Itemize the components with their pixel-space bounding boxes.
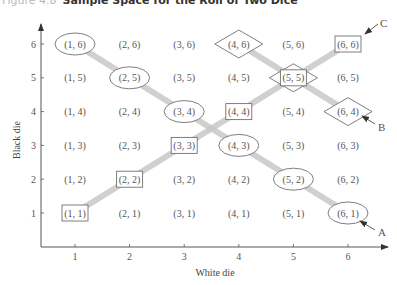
y-tick-label: 1 <box>31 208 36 219</box>
y-tick-label: 6 <box>31 39 36 50</box>
outcome-label: (3, 1) <box>173 208 195 220</box>
outcome-label: (2, 4) <box>119 106 141 118</box>
outcome-label: (6, 2) <box>337 174 359 186</box>
callout-arrow-a <box>360 221 375 230</box>
outcome-label: (5, 2) <box>283 174 305 186</box>
outcome-label: (3, 5) <box>173 72 195 84</box>
outcome-label: (2, 2) <box>119 174 141 186</box>
callout-arrow-c <box>365 24 378 34</box>
outcome-label: (4, 2) <box>228 174 250 186</box>
outcome-label: (4, 6) <box>228 39 250 51</box>
outcome-label: (3, 4) <box>173 106 195 118</box>
x-axis-label: White die <box>195 267 235 278</box>
outcome-label: (1, 5) <box>64 72 86 84</box>
outcome-label: (2, 1) <box>119 208 141 220</box>
outcome-label: (2, 6) <box>119 39 141 51</box>
outcome-label: (5, 3) <box>283 140 305 152</box>
x-tick-label: 4 <box>236 251 241 262</box>
y-tick-label: 2 <box>31 174 36 185</box>
outcome-label: (5, 6) <box>283 39 305 51</box>
outcome-label: (6, 1) <box>337 208 359 220</box>
event-callouts: A B C <box>360 17 387 238</box>
outcome-label: (6, 4) <box>337 106 359 118</box>
callout-label-b: B <box>378 121 385 133</box>
outcome-label: (3, 2) <box>173 174 195 186</box>
y-tick-label: 5 <box>31 72 36 83</box>
x-tick-label: 3 <box>182 251 187 262</box>
outcome-label: (2, 3) <box>119 140 141 152</box>
outcome-label: (3, 6) <box>173 39 195 51</box>
callout-arrow-b <box>362 116 375 124</box>
outcome-label: (6, 6) <box>337 39 359 51</box>
y-tick-label: 4 <box>31 106 36 117</box>
dice-sample-space-diagram: 123456123456 (1, 6)(2, 6)(3, 6)(4, 6)(5,… <box>0 0 397 285</box>
y-axis-label: Black die <box>11 120 22 159</box>
outcome-label: (4, 1) <box>228 208 250 220</box>
outcome-label: (1, 3) <box>64 140 86 152</box>
outcome-label: (4, 4) <box>228 106 250 118</box>
x-tick-label: 5 <box>291 251 296 262</box>
x-tick-label: 6 <box>346 251 351 262</box>
outcome-label: (4, 5) <box>228 72 250 84</box>
outcome-label: (6, 5) <box>337 72 359 84</box>
outcome-label: (1, 2) <box>64 174 86 186</box>
outcome-label: (4, 3) <box>228 140 250 152</box>
callout-label-c: C <box>380 17 387 29</box>
outcome-label: (3, 3) <box>173 140 195 152</box>
x-tick-label: 2 <box>127 251 132 262</box>
outcome-label: (6, 3) <box>337 140 359 152</box>
outcome-label: (5, 5) <box>283 72 305 84</box>
outcome-label: (1, 6) <box>64 39 86 51</box>
x-tick-label: 1 <box>73 251 78 262</box>
outcome-label: (5, 1) <box>283 208 305 220</box>
outcome-label: (2, 5) <box>119 72 141 84</box>
y-tick-label: 3 <box>31 140 36 151</box>
outcome-label: (5, 4) <box>283 106 305 118</box>
outcome-label: (1, 1) <box>64 208 86 220</box>
callout-label-a: A <box>378 226 386 238</box>
outcome-label: (1, 4) <box>64 106 86 118</box>
